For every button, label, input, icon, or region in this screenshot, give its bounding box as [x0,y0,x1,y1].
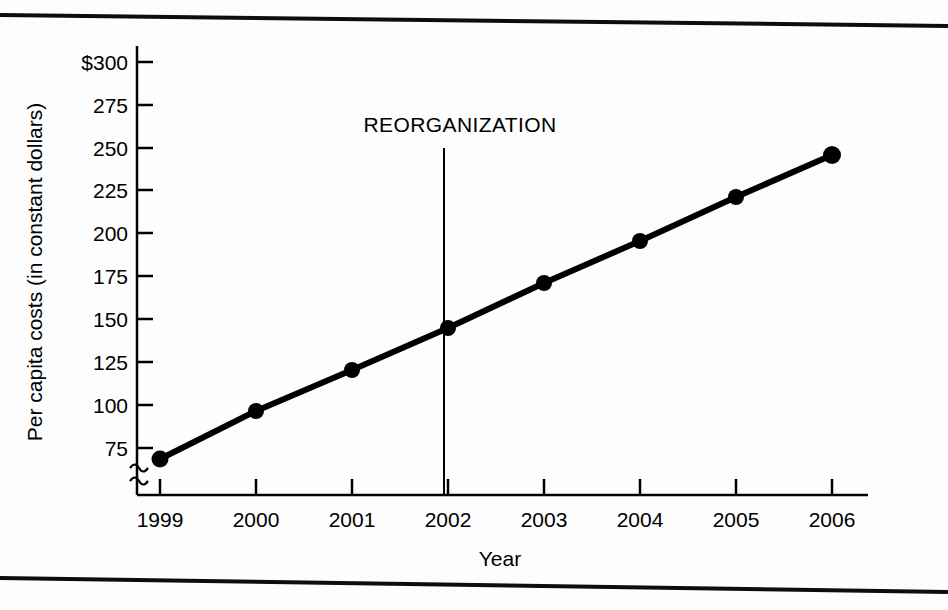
x-tick-label-2001: 2001 [329,508,376,531]
y-tick-label-300: $300 [81,51,128,74]
y-axis-title: Per capita costs (in constant dollars) [23,103,46,441]
x-tick-label-2003: 2003 [521,508,568,531]
data-point-2000 [248,403,264,419]
data-point-2003 [536,275,552,291]
data-point-2002 [440,320,456,336]
x-tick-label-2002: 2002 [425,508,472,531]
reorganization-annotation-label: REORGANIZATION [363,113,556,136]
y-axis-break-icon [130,465,148,485]
x-tick-label-2006: 2006 [809,508,856,531]
y-tick-label-150: 150 [93,308,128,331]
data-point-1999 [152,451,169,468]
x-tick-label-2000: 2000 [233,508,280,531]
y-tick-label-75: 75 [105,437,128,460]
data-point-2005 [728,189,744,205]
y-tick-label-175: 175 [93,265,128,288]
y-tick-label-250: 250 [93,137,128,160]
data-point-2004 [632,233,648,249]
y-tick-label-100: 100 [93,394,128,417]
x-axis-ticks [160,479,832,495]
x-axis-title: Year [479,547,521,570]
x-tick-label-1999: 1999 [137,508,184,531]
y-tick-label-275: 275 [93,94,128,117]
y-tick-label-225: 225 [93,179,128,202]
data-point-2001 [344,362,360,378]
x-tick-label-2005: 2005 [713,508,760,531]
x-tick-label-2004: 2004 [617,508,664,531]
y-axis-ticks [137,62,153,448]
line-chart: $300 275 250 225 200 175 150 125 100 75 … [0,0,948,610]
y-tick-label-125: 125 [93,351,128,374]
data-point-2006 [823,146,841,164]
figure-page: $300 275 250 225 200 175 150 125 100 75 … [0,0,948,610]
y-tick-label-200: 200 [93,222,128,245]
